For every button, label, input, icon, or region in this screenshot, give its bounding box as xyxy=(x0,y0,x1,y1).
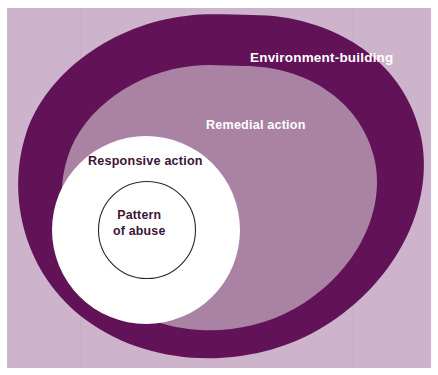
diagram-canvas: Environment-building Remedial action Res… xyxy=(0,0,438,375)
label-pattern-line-2: of abuse xyxy=(113,224,166,240)
label-pattern-line-1: Pattern xyxy=(113,208,166,224)
label-remedial-action: Remedial action xyxy=(206,118,306,132)
label-pattern-of-abuse: Pattern of abuse xyxy=(113,208,166,239)
label-environment-building: Environment-building xyxy=(250,50,394,65)
label-responsive-action: Responsive action xyxy=(88,154,203,168)
